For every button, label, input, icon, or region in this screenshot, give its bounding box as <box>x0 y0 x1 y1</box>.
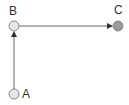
node-c[interactable] <box>113 21 123 31</box>
node-b[interactable] <box>9 21 19 31</box>
node-c-label: C <box>114 4 123 16</box>
node-b-label: B <box>9 5 17 17</box>
node-a[interactable] <box>9 89 19 99</box>
graph-canvas <box>0 0 129 105</box>
node-a-label: A <box>22 88 30 100</box>
